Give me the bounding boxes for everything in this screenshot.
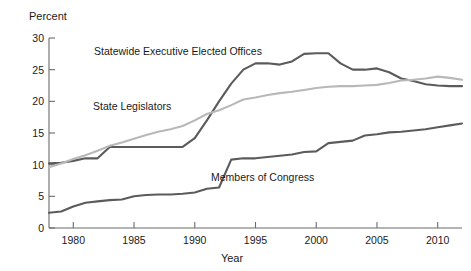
series-lines [49,53,462,213]
y-tick-label: 10 [32,159,44,171]
x-tick-label: 1990 [183,234,207,246]
x-tick-label: 1995 [244,234,268,246]
series-annotations: Statewide Executive Elected OfficesState… [93,45,314,183]
y-tick-label: 30 [32,32,44,44]
y-axis: 051015202530 [32,32,55,234]
y-axis-ticks [49,38,55,228]
x-tick-label: 1985 [122,234,146,246]
series-line-2 [49,124,462,213]
y-tick-label: 20 [32,95,44,107]
x-tick-label: 2010 [426,234,450,246]
x-tick-label: 1980 [62,234,86,246]
series-annotation-1: State Legislators [93,100,171,112]
chart-container: 051015202530 198019851990199520002005201… [0,0,471,271]
y-tick-label: 5 [38,190,44,202]
x-tick-label: 2005 [365,234,389,246]
series-line-1 [49,77,462,168]
x-axis-tick-labels: 1980198519901995200020052010 [62,234,450,246]
x-axis-title: Year [221,252,244,264]
x-tick-label: 2000 [305,234,329,246]
y-tick-label: 15 [32,127,44,139]
y-tick-label: 25 [32,64,44,76]
line-chart: 051015202530 198019851990199520002005201… [0,0,471,271]
series-annotation-0: Statewide Executive Elected Offices [94,45,262,57]
y-axis-title: Percent [29,10,67,22]
y-tick-label: 0 [38,222,44,234]
x-axis: 1980198519901995200020052010 [49,222,462,246]
y-axis-tick-labels: 051015202530 [32,32,44,234]
x-axis-ticks [73,222,437,228]
series-annotation-2: Members of Congress [211,171,314,183]
